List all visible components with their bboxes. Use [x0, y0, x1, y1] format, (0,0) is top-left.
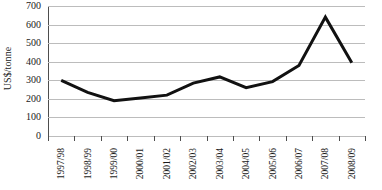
- x-axis-tick: [74, 136, 75, 141]
- x-axis-tick-label: 1998/99: [82, 148, 94, 190]
- x-axis-tick-label: 2008/09: [346, 148, 358, 190]
- x-axis-tick: [233, 136, 234, 141]
- x-axis-tick-label: 2005/06: [267, 148, 279, 190]
- plot-area: [48, 6, 365, 136]
- y-axis-tick-label: 300: [26, 75, 41, 85]
- x-axis-tick: [365, 136, 366, 141]
- x-axis-tick-label: 2007/08: [319, 148, 331, 190]
- y-axis-tick-label: 700: [26, 1, 41, 11]
- y-axis-title: US$/tonne: [0, 0, 16, 136]
- x-axis-tick-label: 2002/03: [187, 148, 199, 190]
- series-polyline: [61, 17, 352, 101]
- y-axis-tick-label: 100: [26, 112, 41, 122]
- x-axis-tick-label: 2003/04: [214, 148, 226, 190]
- x-axis-tick: [48, 136, 49, 141]
- x-axis-tick-labels: 1997/981998/991999/002000/012001/022002/…: [48, 142, 365, 190]
- x-axis-tick-label: 2001/02: [161, 148, 173, 190]
- y-axis-tick-label: 400: [26, 57, 41, 67]
- y-axis-tick-label: 200: [26, 94, 41, 104]
- x-axis-tick: [180, 136, 181, 141]
- y-axis-title-label: US$/tonne: [3, 46, 14, 90]
- x-axis-tick: [259, 136, 260, 141]
- y-axis-tick-label: 600: [26, 20, 41, 30]
- x-axis-tick: [339, 136, 340, 141]
- x-axis-tick: [154, 136, 155, 141]
- x-axis-tick-label: 2000/01: [134, 148, 146, 190]
- x-axis-tick-label: 1997/98: [55, 148, 67, 190]
- x-axis-tick-label: 1999/00: [108, 148, 120, 190]
- x-axis-tick: [101, 136, 102, 141]
- x-axis-tick: [312, 136, 313, 141]
- y-axis-tick-labels: 0100200300400500600700: [16, 0, 44, 142]
- y-axis-tick-label: 0: [36, 131, 41, 141]
- data-series-line: [48, 6, 365, 136]
- x-axis-tick-label: 2004/05: [240, 148, 252, 190]
- x-axis-tick: [127, 136, 128, 141]
- x-axis-tick: [207, 136, 208, 141]
- x-axis-tick: [286, 136, 287, 141]
- y-axis-tick-label: 500: [26, 38, 41, 48]
- x-axis-ticks: [48, 136, 365, 141]
- x-axis-tick-label: 2006/07: [293, 148, 305, 190]
- line-chart-figure: US$/tonne 0100200300400500600700 1997/98…: [0, 0, 382, 190]
